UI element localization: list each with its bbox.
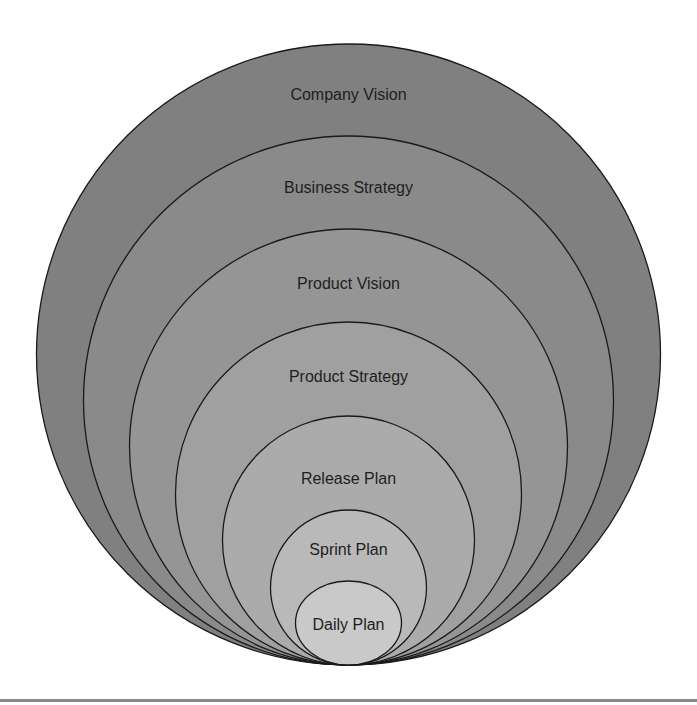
nested-planning-circles-diagram: Company Vision Business Strategy Product… <box>0 0 697 705</box>
label-release-plan: Release Plan <box>301 470 396 487</box>
label-product-vision: Product Vision <box>297 275 400 292</box>
label-product-strategy: Product Strategy <box>289 368 408 385</box>
label-daily-plan: Daily Plan <box>312 616 384 633</box>
bottom-divider-rule <box>0 699 697 702</box>
label-business-strategy: Business Strategy <box>284 179 413 196</box>
rings-group <box>37 44 661 665</box>
label-sprint-plan: Sprint Plan <box>309 541 387 558</box>
label-company-vision: Company Vision <box>290 86 406 103</box>
